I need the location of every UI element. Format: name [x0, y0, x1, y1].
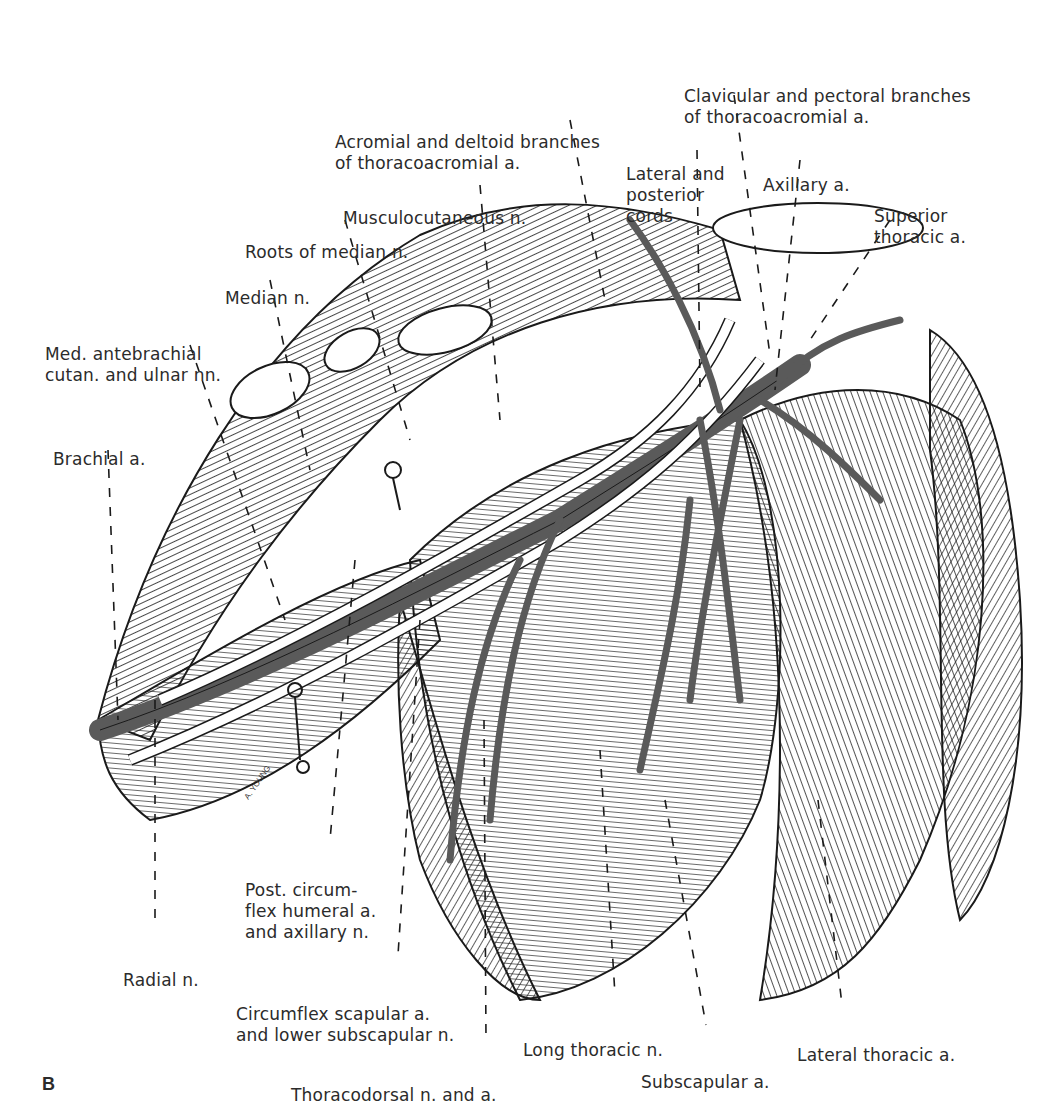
label-lateral-posterior-cords: Lateral andposteriorcords [626, 122, 725, 269]
label-median-nerve: Median n. [225, 246, 310, 351]
anatomical-figure-axilla: Clavicular and pectoral branchesof thora… [0, 0, 1047, 1109]
label-superior-thoracic-artery: Superiorthoracic a. [874, 164, 966, 290]
label-radial-nerve: Radial n. [123, 928, 199, 1033]
pectoralis-minor-reflected [930, 330, 1022, 920]
label-subscapular-artery: Subscapular a. [641, 1030, 770, 1109]
label-brachial-artery: Brachial a. [53, 407, 145, 512]
label-thoracodorsal: Thoracodorsal n. and a. [291, 1043, 497, 1109]
label-axillary-artery: Axillary a. [763, 133, 850, 238]
label-lateral-thoracic-artery: Lateral thoracic a. [797, 1003, 955, 1108]
panel-letter: B [42, 1074, 55, 1095]
